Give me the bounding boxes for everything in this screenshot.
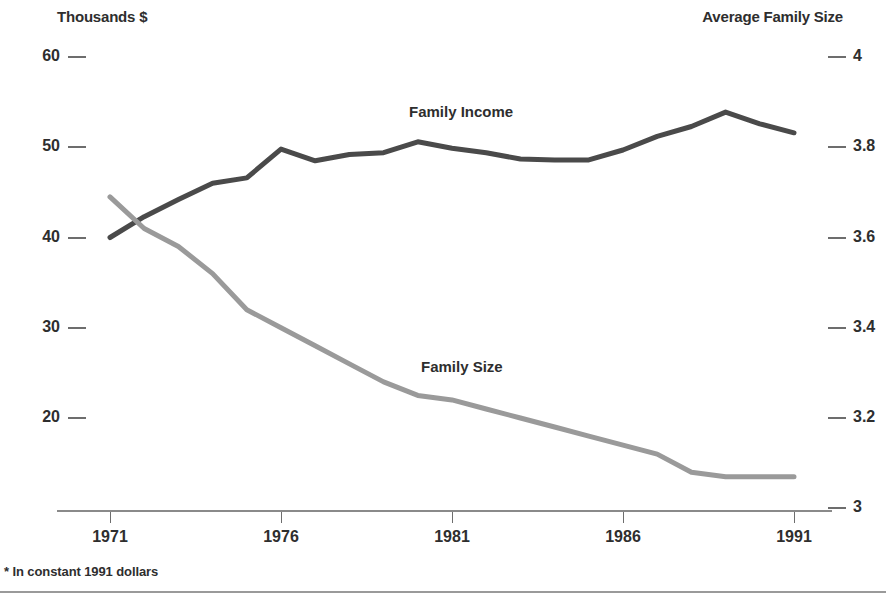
x-axis-tick-label: 1981 [422,528,482,546]
x-axis-tick-mark [794,512,795,523]
right-axis-tick-mark [828,507,846,509]
x-axis-tick-mark [281,512,282,523]
x-axis-tick-mark [623,512,624,523]
left-axis-tick-mark [68,56,86,58]
right-axis-tick-mark [828,327,846,329]
right-axis-tick-mark [828,237,846,239]
right-axis-tick-label: 3 [853,498,886,516]
left-axis-title: Thousands $ [57,8,147,25]
left-axis-tick-label: 60 [26,47,60,65]
bottom-rule [0,591,886,593]
left-axis-tick-mark [68,327,86,329]
x-axis-line [57,510,832,512]
right-axis-title: Average Family Size [702,8,843,25]
left-axis-tick-label: 40 [26,228,60,246]
family-size-line [110,197,794,477]
right-axis-tick-mark [828,56,846,58]
right-axis-tick-mark [828,417,846,419]
x-axis-tick-label: 1976 [251,528,311,546]
family-size-annotation: Family Size [421,358,503,375]
right-axis-tick-label: 3.6 [853,228,886,246]
left-axis-tick-mark [68,146,86,148]
x-axis-tick-label: 1986 [593,528,653,546]
family-income-annotation: Family Income [409,103,513,120]
right-axis-tick-label: 3.8 [853,137,886,155]
right-axis-tick-mark [828,146,846,148]
left-axis-tick-label: 50 [26,137,60,155]
right-axis-tick-label: 3.2 [853,408,886,426]
family-income-and-size-chart: Thousands $ Average Family Size 20304050… [0,0,886,599]
x-axis-tick-mark [110,512,111,523]
left-axis-tick-label: 20 [26,408,60,426]
family-income-line [110,112,794,237]
footnote: * In constant 1991 dollars [4,564,158,579]
x-axis-tick-mark [452,512,453,523]
x-axis-tick-label: 1991 [764,528,824,546]
left-axis-tick-mark [68,237,86,239]
left-axis-tick-label: 30 [26,318,60,336]
right-axis-tick-label: 3.4 [853,318,886,336]
left-axis-tick-mark [68,417,86,419]
right-axis-tick-label: 4 [853,47,886,65]
x-axis-tick-label: 1971 [80,528,140,546]
